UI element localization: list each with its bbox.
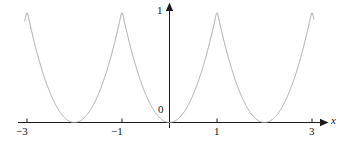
origin-label: 0: [158, 104, 164, 115]
plot-canvas: [0, 0, 340, 145]
x-axis-label-pos3: 3: [309, 126, 315, 137]
y-axis-arrow-icon: [166, 3, 173, 12]
graph-figure: −3 −1 1 3 1 0 x: [0, 0, 340, 145]
x-axis-name: x: [331, 115, 336, 126]
x-axis-label-neg3: −3: [16, 126, 28, 137]
x-axis-label-neg1: −1: [111, 126, 123, 137]
x-axis-label-pos1: 1: [214, 126, 220, 137]
x-axis-arrow-icon: [320, 119, 329, 126]
y-axis-label-one: 1: [157, 5, 163, 16]
